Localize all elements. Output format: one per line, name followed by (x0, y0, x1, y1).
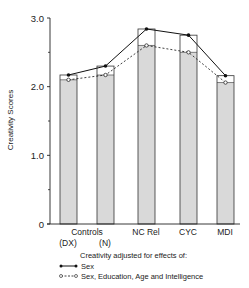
open-circle-marker-icon (145, 44, 148, 47)
open-circle-marker-icon (224, 81, 227, 84)
y-axis-title: Creativity Scores (6, 90, 15, 150)
y-tick-label: 0 (39, 219, 44, 230)
filled-circle-marker-icon (104, 64, 108, 68)
x-category-label: NC Rel (132, 227, 160, 237)
filled-circle-marker-icon (187, 33, 191, 37)
filled-circle-marker-icon (145, 27, 149, 31)
y-tick-label: 3.0 (31, 13, 44, 24)
legend: Creativity adjusted for effects of:SexSe… (60, 251, 204, 281)
legend-title: Creativity adjusted for effects of: (80, 251, 187, 260)
open-circle-marker-icon (104, 73, 107, 76)
x-category-label: MDI (217, 227, 233, 237)
filled-circle-marker-icon (60, 265, 63, 268)
bar-fill (217, 83, 234, 224)
legend-entry-sex: Sex (81, 262, 94, 271)
y-tick-label: 2.0 (31, 81, 44, 92)
creativity-chart: 01.02.03.0Creativity ScoresControls(DX)(… (0, 0, 249, 288)
bar-fill (97, 75, 114, 224)
bar-fill (60, 80, 77, 224)
labels-layer: 01.02.03.0Creativity ScoresControls(DX)(… (6, 13, 233, 249)
filled-circle-marker-icon (67, 73, 71, 77)
filled-circle-marker-icon (75, 265, 78, 268)
y-tick-label: 1.0 (31, 150, 44, 161)
bars-layer (60, 29, 234, 224)
filled-circle-marker-icon (224, 74, 228, 78)
x-category-sublabel: (N) (99, 238, 111, 248)
open-circle-marker-icon (187, 51, 190, 54)
open-circle-marker-icon (67, 78, 70, 81)
x-category-label: CYC (179, 227, 197, 237)
x-category-sublabel: (DX) (59, 238, 77, 248)
open-circle-marker-icon (75, 275, 78, 278)
legend-entry-adjusted: Sex, Education, Age and Intelligence (81, 272, 203, 281)
x-category-group-label: Controls (71, 227, 103, 237)
bar-fill (138, 45, 155, 224)
open-circle-marker-icon (60, 275, 63, 278)
bar-fill (180, 52, 197, 224)
